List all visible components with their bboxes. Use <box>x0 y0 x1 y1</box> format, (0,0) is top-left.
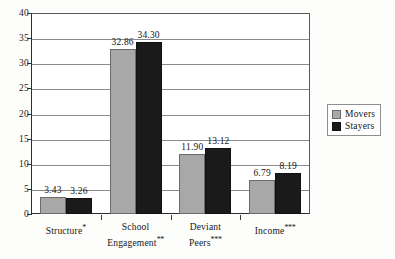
bar-movers <box>179 154 205 214</box>
bar-movers <box>249 180 275 214</box>
bar-value-label: 34.30 <box>137 30 159 40</box>
x-axis-label: DeviantPeers*** <box>189 222 222 249</box>
legend-label-movers: Movers <box>345 109 375 119</box>
bar-stayers <box>136 42 162 214</box>
legend-swatch-stayers-icon <box>332 122 341 131</box>
legend-item-movers: Movers <box>332 108 375 120</box>
bar-chart: 0510152025303540 3.433.2632.8634.3011.90… <box>0 0 395 259</box>
x-axis-label: Structure* <box>46 222 86 238</box>
y-axis: 0510152025303540 <box>0 0 29 259</box>
significance-asterisks: ** <box>157 235 164 244</box>
x-tick-mark <box>240 215 241 220</box>
significance-asterisks: * <box>82 223 86 232</box>
y-tick-label: 10 <box>7 159 29 169</box>
y-tick-label: 15 <box>7 134 29 144</box>
y-tick-label: 20 <box>7 109 29 119</box>
bar-value-label: 11.90 <box>181 142 203 152</box>
bar-value-label: 8.19 <box>279 161 296 171</box>
significance-asterisks: *** <box>211 235 222 244</box>
y-tick-label: 40 <box>7 8 29 18</box>
x-tick-mark <box>101 215 102 220</box>
bar-group: 32.8634.30 <box>110 13 162 214</box>
bar-group: 3.433.26 <box>40 13 92 214</box>
bar-group: 6.798.19 <box>249 13 301 214</box>
bar-movers <box>40 197 66 214</box>
y-tick-label: 0 <box>7 209 29 219</box>
x-tick-mark <box>171 215 172 220</box>
bar-stayers <box>205 148 231 214</box>
bar-value-label: 6.79 <box>253 168 270 178</box>
bar-value-label: 32.86 <box>111 37 133 47</box>
legend-swatch-movers-icon <box>332 110 341 119</box>
x-axis-label: Income*** <box>255 222 296 238</box>
bar-movers <box>110 49 136 214</box>
bar-stayers <box>275 173 301 214</box>
x-axis-label: SchoolEngagement** <box>107 222 164 249</box>
y-tick-label: 25 <box>7 83 29 93</box>
bar-stayers <box>66 198 92 214</box>
bar-group: 11.9013.12 <box>179 13 231 214</box>
y-tick-mark <box>27 214 32 215</box>
legend: Movers Stayers <box>327 104 381 136</box>
significance-asterisks: *** <box>284 223 295 232</box>
legend-item-stayers: Stayers <box>332 120 375 132</box>
y-tick-label: 30 <box>7 58 29 68</box>
y-tick-label: 5 <box>7 184 29 194</box>
bar-value-label: 3.26 <box>70 186 87 196</box>
bar-value-label: 13.12 <box>207 136 229 146</box>
bar-value-label: 3.43 <box>44 185 61 195</box>
y-tick-label: 35 <box>7 33 29 43</box>
legend-label-stayers: Stayers <box>345 121 374 131</box>
bars-layer: 3.433.2632.8634.3011.9013.126.798.19 <box>31 13 310 214</box>
